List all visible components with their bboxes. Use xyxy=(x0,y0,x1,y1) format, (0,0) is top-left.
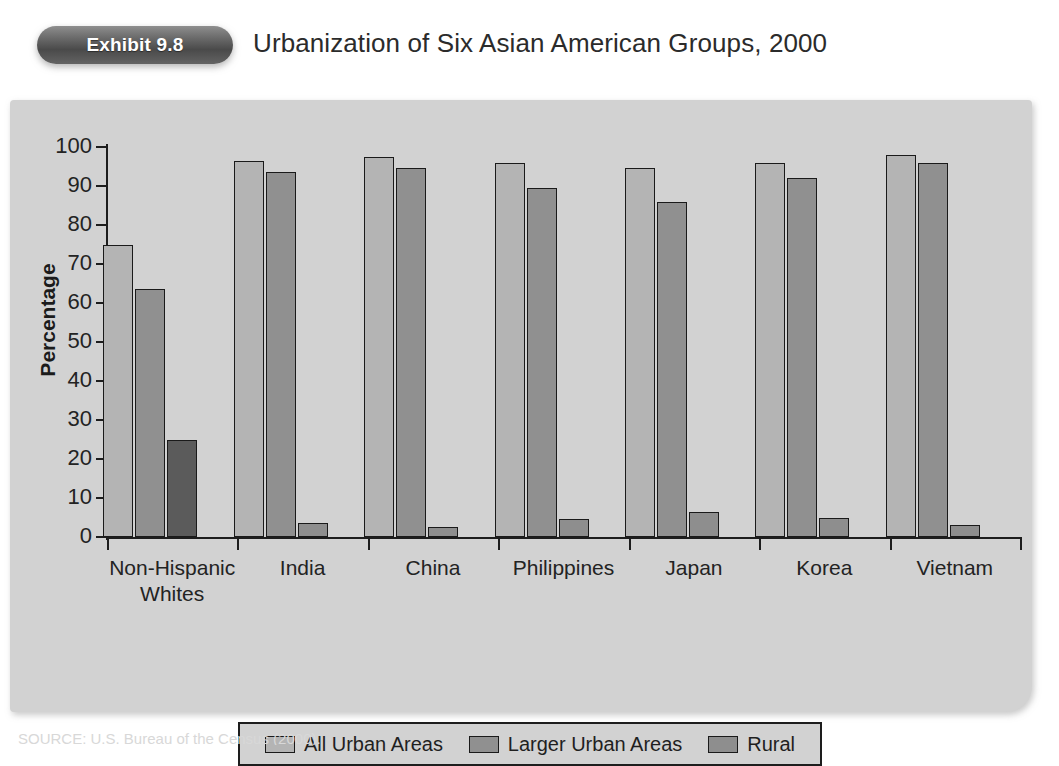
bar xyxy=(135,289,165,537)
bar xyxy=(364,157,394,537)
exhibit-badge-label: Exhibit 9.8 xyxy=(86,34,183,56)
y-axis-tick-label: 70 xyxy=(46,252,92,274)
bar xyxy=(918,163,948,537)
y-axis-tick-label: 0 xyxy=(46,525,92,547)
bar xyxy=(527,188,557,537)
legend-item: Rural xyxy=(708,733,795,756)
y-axis-tick-label: 80 xyxy=(46,213,92,235)
bar-group xyxy=(625,147,719,537)
bar xyxy=(167,440,197,538)
legend-label: Rural xyxy=(747,733,795,756)
legend-swatch-icon xyxy=(469,736,499,753)
legend-swatch-icon xyxy=(708,736,738,753)
plot-area xyxy=(107,147,1020,537)
page-title: Urbanization of Six Asian American Group… xyxy=(253,28,827,59)
legend-item: Larger Urban Areas xyxy=(469,733,683,756)
bar xyxy=(755,163,785,537)
y-axis-tick-label: 90 xyxy=(46,174,92,196)
bar xyxy=(103,245,133,538)
x-axis-tick xyxy=(107,539,109,550)
bar-group xyxy=(755,147,849,537)
chart-panel: Percentage 1009080706050403020100 Non-Hi… xyxy=(10,100,1032,712)
y-axis-tick-labels: 1009080706050403020100 xyxy=(30,100,92,712)
bar xyxy=(266,172,296,537)
x-axis-tick xyxy=(498,539,500,550)
bar xyxy=(787,178,817,537)
bar xyxy=(657,202,687,537)
y-axis-tick-label: 40 xyxy=(46,369,92,391)
bar xyxy=(396,168,426,537)
exhibit-badge: Exhibit 9.8 xyxy=(37,26,233,64)
y-axis-tick-label: 10 xyxy=(46,486,92,508)
bar-group xyxy=(495,147,589,537)
bar xyxy=(234,161,264,537)
bar-group xyxy=(234,147,328,537)
x-axis-tick xyxy=(237,539,239,550)
bar xyxy=(689,512,719,537)
bar xyxy=(950,525,980,537)
x-axis-tick xyxy=(368,539,370,550)
bar xyxy=(625,168,655,537)
x-axis-tick xyxy=(629,539,631,550)
y-axis-tick-label: 20 xyxy=(46,447,92,469)
bar xyxy=(559,519,589,537)
bar-group xyxy=(886,147,980,537)
x-axis-line xyxy=(106,537,1022,539)
y-axis-tick-label: 50 xyxy=(46,330,92,352)
chart-header: Exhibit 9.8 Urbanization of Six Asian Am… xyxy=(0,0,1059,92)
legend-label: Larger Urban Areas xyxy=(508,733,683,756)
x-axis-tick xyxy=(759,539,761,550)
bar xyxy=(819,518,849,538)
y-axis-tick-label: 60 xyxy=(46,291,92,313)
bar-group xyxy=(364,147,458,537)
bar xyxy=(298,523,328,537)
x-axis-tick xyxy=(890,539,892,550)
bar xyxy=(495,163,525,537)
x-axis-tick-label: Vietnam xyxy=(850,555,1059,581)
bar xyxy=(886,155,916,537)
x-axis-tick xyxy=(1020,539,1022,550)
bar xyxy=(428,527,458,537)
chart-legend: All Urban AreasLarger Urban AreasRural xyxy=(238,722,822,766)
y-axis-tick-label: 30 xyxy=(46,408,92,430)
source-note: SOURCE: U.S. Bureau of the Census (2000)… xyxy=(18,730,321,745)
bar-group xyxy=(103,147,197,537)
y-axis-tick-label: 100 xyxy=(46,135,92,157)
legend-label: All Urban Areas xyxy=(304,733,443,756)
